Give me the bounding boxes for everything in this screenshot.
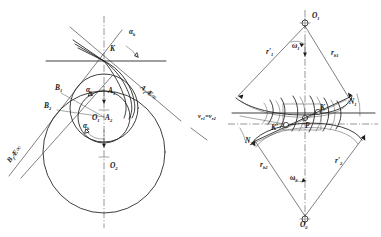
right-tooth-flank-9 — [299, 97, 305, 131]
right-tooth-flank-3 — [292, 96, 298, 131]
label-p: P — [305, 121, 310, 130]
label-o1: O1 — [92, 113, 100, 123]
label-alpha-mid: αk — [86, 85, 93, 95]
figure-root: K αk B1 B2 A1 αk αk O1 A2 O2 A1Æ∞ B1Æ∞ — [0, 0, 381, 237]
right-radius-o2-right-r2prime — [305, 135, 365, 216]
left-angle-arc-lower — [87, 132, 104, 139]
label-rb2: rb2 — [260, 160, 268, 170]
label-a1-to-infinity: A1Æ∞ — [137, 83, 158, 103]
left-axis-arrowhead-lower — [102, 144, 106, 148]
right-line-of-action-parallel — [250, 100, 346, 145]
left-diagonal-b1-infinity — [9, 30, 122, 176]
right-stray-edge-stroke — [191, 128, 207, 140]
label-omega1: ω1 — [292, 41, 300, 51]
label-r1-prime: r′1 — [266, 47, 273, 57]
label-a1: A1 — [107, 86, 115, 96]
label-o1-right: O1 — [312, 11, 320, 21]
label-r2-prime: r′2 — [335, 156, 343, 166]
left-angle-arrowhead-top — [135, 53, 138, 57]
right-diagram-group: O1 O2 r′1 rb1 rb2 r′2 ω1 ω2 K K′ P N1 N2… — [191, 10, 378, 230]
left-diagonal-b2-ray — [21, 76, 112, 178]
label-a2: A2 — [104, 113, 113, 123]
left-straight-profile-c — [78, 48, 104, 61]
left-diagonal-a1-infinity — [70, 27, 181, 121]
label-alpha-low: αk — [83, 121, 90, 131]
label-n2: N2 — [244, 136, 253, 146]
label-alpha-top: αk — [129, 27, 136, 37]
label-omega2: ω2 — [290, 173, 298, 183]
label-velocity-equality: vr1=vr2 — [198, 112, 217, 121]
right-tooth-flank-6 — [336, 101, 341, 129]
left-diagram-group: K αk B1 B2 A1 αk αk O1 A2 O2 A1Æ∞ B1Æ∞ — [5, 16, 181, 228]
label-b2: B2 — [43, 101, 52, 111]
right-line-of-action-n1-n2 — [253, 97, 350, 142]
right-radius-o1-right-rb1 — [305, 26, 349, 98]
label-n1: N1 — [348, 97, 357, 107]
label-b1: B1 — [54, 83, 62, 93]
technical-diagram-svg: K αk B1 B2 A1 αk αk O1 A2 O2 A1Æ∞ B1Æ∞ — [0, 0, 381, 237]
left-axis-arrowhead-upper — [102, 100, 106, 104]
left-radius-to-b1 — [61, 93, 104, 117]
label-k-prime: K′ — [270, 123, 278, 132]
right-radius-o1-left — [238, 26, 305, 96]
label-k-left: K — [109, 44, 116, 53]
label-k-right: K — [319, 103, 326, 112]
label-rb1: rb1 — [331, 48, 338, 58]
label-o2-left: O2 — [110, 161, 118, 171]
right-omega1-shaft-arrowhead — [303, 53, 307, 57]
right-omega2-arrowhead — [302, 178, 307, 182]
label-b1-to-infinity: B1Æ∞ — [5, 144, 24, 165]
